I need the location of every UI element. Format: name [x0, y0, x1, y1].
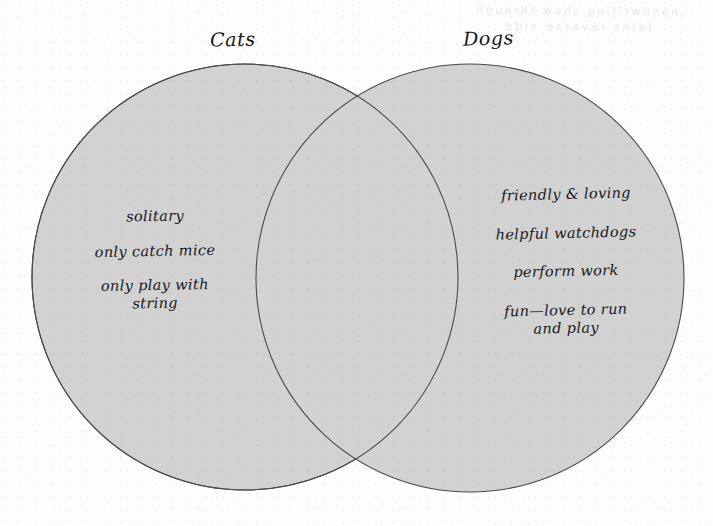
list-item: only catch mice: [60, 241, 250, 262]
list-item: friendly & loving: [462, 183, 670, 206]
venn-items-cats-only: solitary only catch mice only play with …: [60, 208, 250, 313]
venn-diagram: Cats Dogs solitary only catch mice only …: [0, 0, 713, 526]
venn-label-dogs: Dogs: [463, 26, 515, 49]
list-item: only play with string: [60, 276, 251, 315]
list-item: helpful watchdogs: [462, 222, 670, 244]
venn-items-dogs-only: friendly & loving helpful watchdogs perf…: [462, 186, 670, 337]
venn-label-cats: Cats: [210, 28, 256, 51]
list-item: solitary: [60, 207, 250, 227]
list-item: fun—love to run and play: [462, 300, 671, 340]
list-item: perform work: [462, 261, 670, 283]
